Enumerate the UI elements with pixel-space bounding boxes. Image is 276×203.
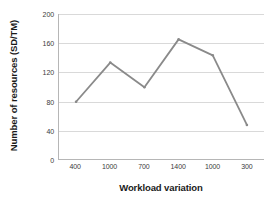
y-tick-label: 200 xyxy=(28,11,54,18)
x-tick-label: 700 xyxy=(138,163,149,170)
x-axis-title: Workload variation xyxy=(58,182,264,193)
x-axis-tick-labels: 400100070014001000300 xyxy=(58,163,264,177)
data-point xyxy=(109,61,112,64)
x-tick-label: 1400 xyxy=(171,163,186,170)
data-point xyxy=(143,86,146,89)
x-tick-label: 400 xyxy=(69,163,80,170)
y-tick-label: 120 xyxy=(28,69,54,76)
y-tick-label: 40 xyxy=(28,127,54,134)
x-tick-label: 1000 xyxy=(205,163,220,170)
line-chart: Number of resources (SD/TM) 200160120804… xyxy=(0,0,276,203)
series-line-number-of-resources xyxy=(76,39,247,125)
data-point xyxy=(75,100,78,103)
plot-area xyxy=(58,14,264,160)
series-layer xyxy=(59,14,264,159)
y-axis-tick-labels: 20016012080400 xyxy=(28,10,54,160)
y-tick-label: 160 xyxy=(28,40,54,47)
data-point xyxy=(211,54,214,57)
data-point xyxy=(177,38,180,41)
y-axis-title: Number of resources (SD/TM) xyxy=(8,11,19,161)
x-tick-label: 1000 xyxy=(102,163,117,170)
y-tick-label: 80 xyxy=(28,98,54,105)
y-tick-label: 0 xyxy=(28,157,54,164)
series-markers xyxy=(75,38,248,126)
data-point xyxy=(246,124,249,127)
x-tick-label: 300 xyxy=(241,163,252,170)
